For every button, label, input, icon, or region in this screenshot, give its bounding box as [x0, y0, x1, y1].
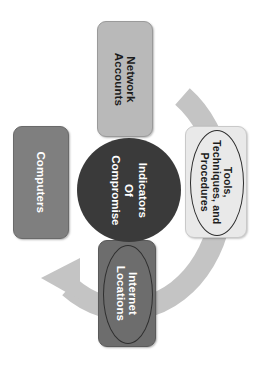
node-computers[interactable]: Computers [13, 126, 69, 239]
label-line-2: Techniques, and [210, 140, 221, 224]
node-network-accounts[interactable]: Network Accounts [97, 21, 153, 137]
node-tools-techniques-procedures-label: Tools, Techniques, and Procedures [199, 140, 233, 224]
label-line-1: Indicators [136, 155, 150, 225]
center-node-indicators-of-compromise[interactable]: Indicators Of Compromise [77, 138, 181, 242]
label-line-1: Computers [35, 152, 47, 214]
ring-arrowhead [41, 258, 80, 300]
node-tools-techniques-procedures[interactable]: Tools, Techniques, and Procedures [185, 126, 247, 238]
diagram-canvas: Network Accounts Computers Tools, Techni… [0, 0, 256, 373]
node-network-accounts-label: Network Accounts [113, 52, 138, 105]
label-line-1: Internet [127, 266, 139, 321]
label-line-2: Accounts [113, 52, 125, 105]
label-line-1: Tools, [222, 140, 233, 224]
label-line-2: Locations [115, 266, 127, 321]
label-line-3: Procedures [199, 140, 210, 224]
label-line-2: Of [122, 155, 136, 225]
node-computers-label: Computers [35, 152, 47, 214]
node-internet-locations[interactable]: Internet Locations [98, 240, 156, 347]
label-line-3: Compromise [109, 155, 123, 225]
node-internet-locations-label: Internet Locations [115, 266, 140, 321]
center-node-label: Indicators Of Compromise [109, 155, 150, 225]
label-line-1: Network [125, 52, 137, 105]
